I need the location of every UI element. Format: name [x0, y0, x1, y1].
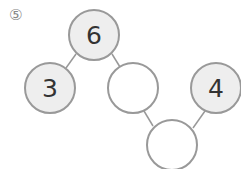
- node-bottom-blank[interactable]: [147, 120, 197, 169]
- node-right-value: 4: [208, 74, 224, 103]
- node-right: 4: [191, 63, 241, 113]
- node-top: 6: [69, 10, 119, 60]
- node-top-value: 6: [86, 21, 102, 50]
- problem-number: ⑤: [9, 6, 22, 24]
- connector-middle-bottom: [144, 111, 153, 126]
- connector-right-bottom: [193, 111, 205, 128]
- node-left: 3: [25, 63, 75, 113]
- connector-top-left: [66, 54, 76, 68]
- connector-top-middle: [112, 54, 120, 67]
- node-left-value: 3: [42, 74, 58, 103]
- number-bond-diagram: ⑤ 6 3 4: [0, 0, 241, 169]
- node-middle-blank[interactable]: [108, 63, 158, 113]
